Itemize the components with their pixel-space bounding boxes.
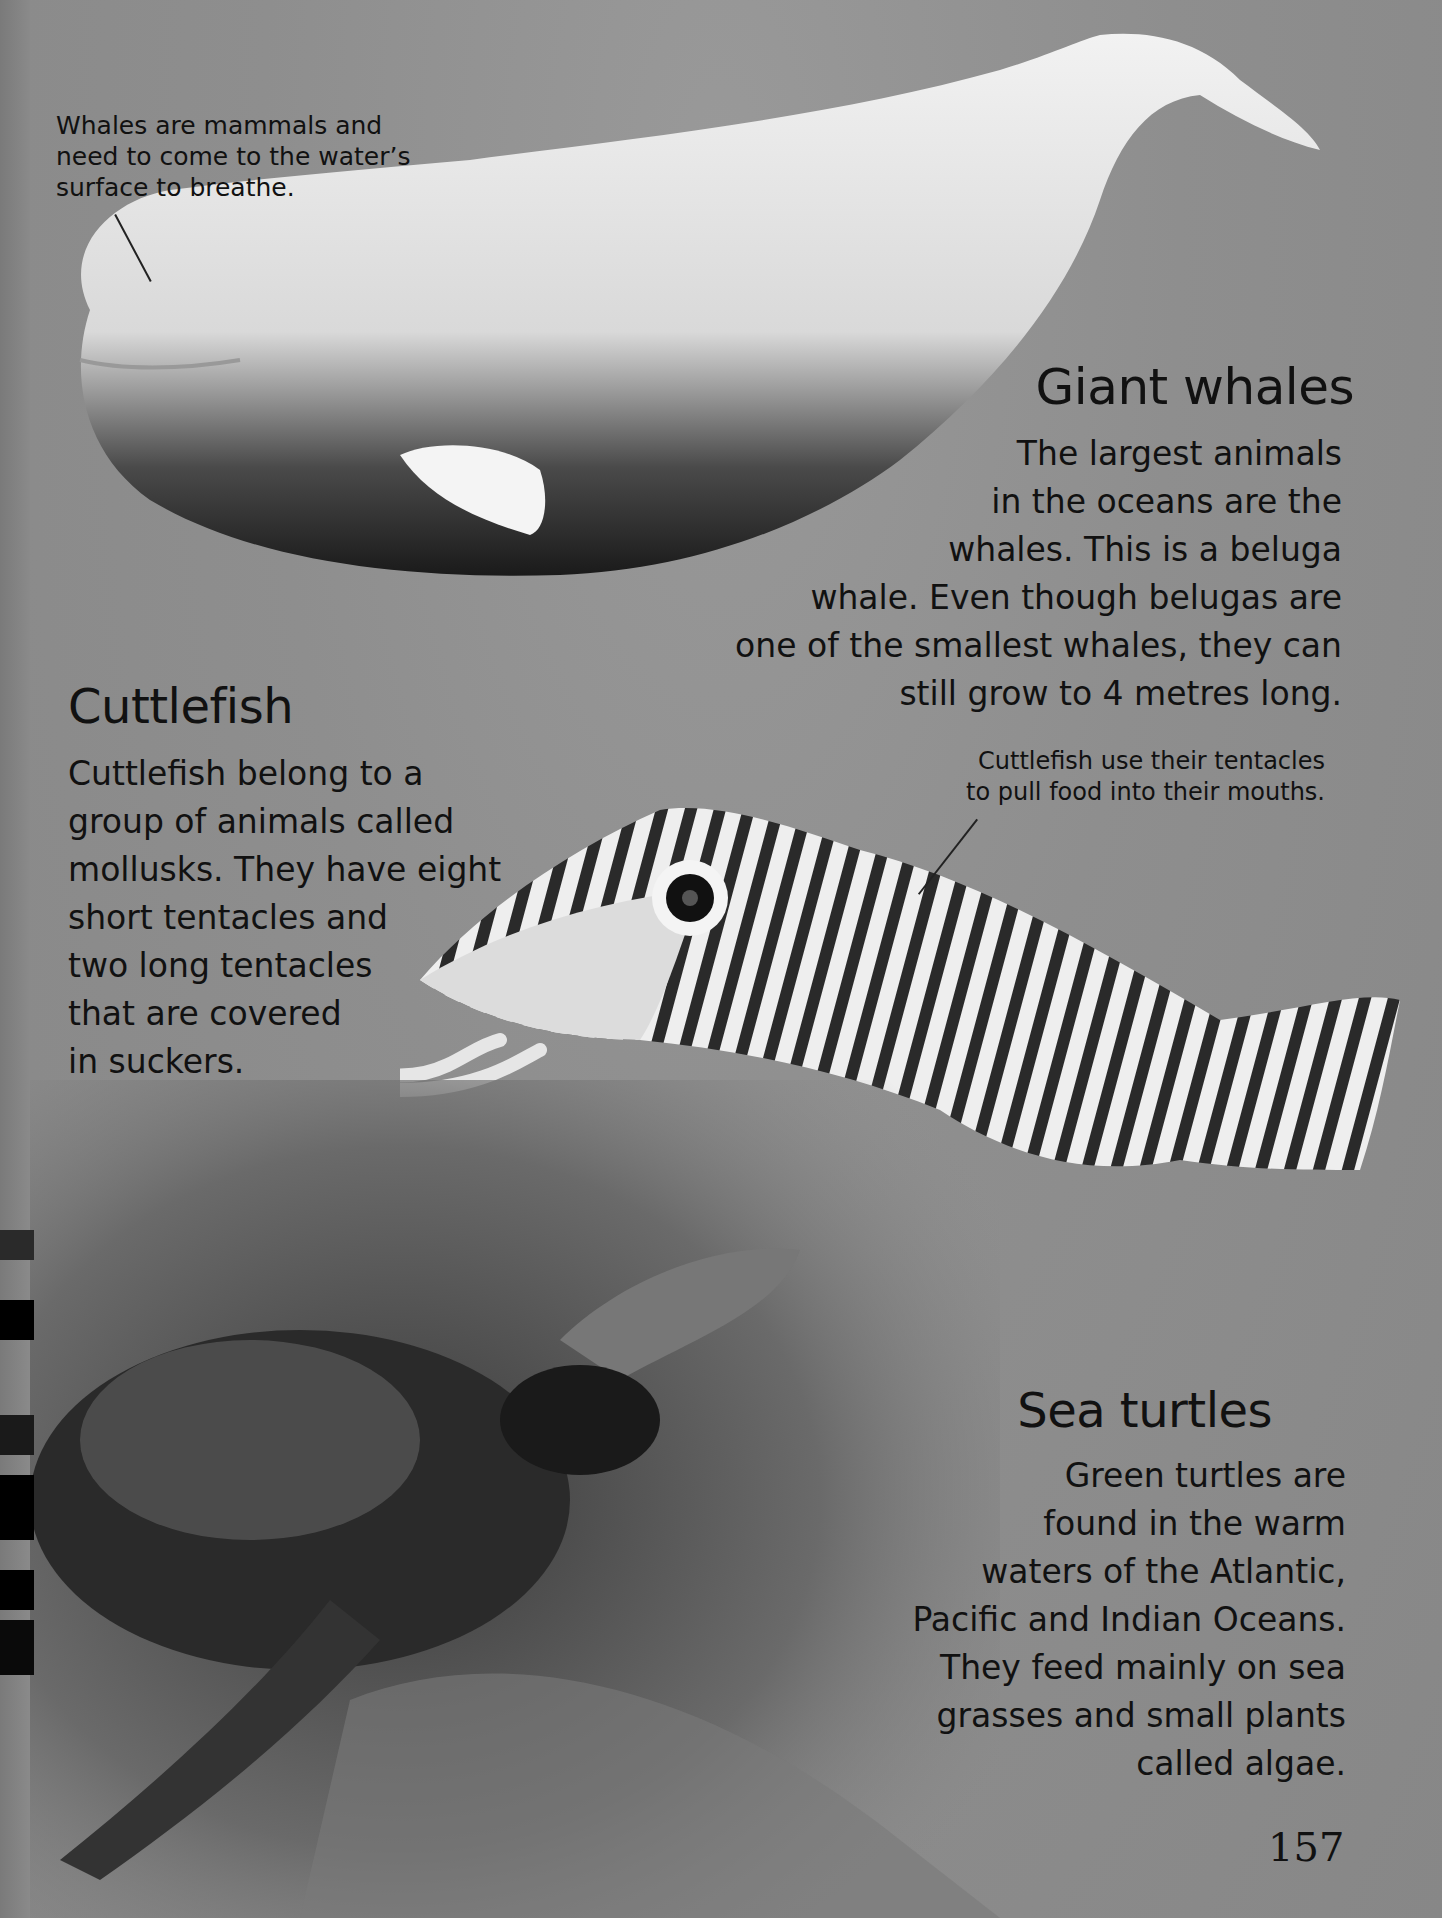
page-number: 157 <box>1268 1824 1344 1870</box>
cuttlefish-body: Cuttlefish belong to a group of animals … <box>68 750 501 1086</box>
page-stack-strip <box>0 1475 34 1540</box>
cuttlefish-caption: Cuttlefish use their tentacles to pull f… <box>966 746 1325 808</box>
sea-turtle-image <box>0 1080 1000 1918</box>
page-stack-strip <box>0 1570 34 1610</box>
page-stack-strip <box>0 1620 34 1675</box>
giant-whales-body: The largest animals in the oceans are th… <box>735 430 1342 718</box>
giant-whales-heading: Giant whales <box>1036 362 1354 412</box>
page-stack-strip <box>0 1300 34 1340</box>
whale-caption: Whales are mammals and need to come to t… <box>56 110 410 203</box>
sea-turtles-body: Green turtles are found in the warm wate… <box>912 1452 1346 1788</box>
page-stack-strip <box>0 1230 34 1260</box>
sea-turtles-heading: Sea turtles <box>1017 1386 1272 1434</box>
page-stack-strip <box>0 1415 34 1455</box>
cuttlefish-heading: Cuttlefish <box>68 682 293 730</box>
